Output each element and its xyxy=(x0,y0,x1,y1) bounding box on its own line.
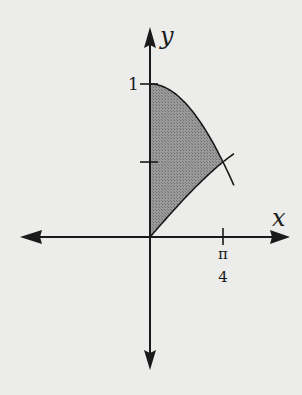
x-tick-label-denominator: 4 xyxy=(218,268,228,286)
y-tick-label: 1 xyxy=(128,74,139,94)
x-axis-label: x xyxy=(272,204,286,232)
shaded-region xyxy=(150,84,223,237)
x-tick-label-numerator: π xyxy=(218,245,228,263)
x-axis-left-arrow xyxy=(20,230,42,244)
y-axis-up-arrow xyxy=(144,27,156,48)
x-axis-right-arrow xyxy=(270,230,290,244)
y-axis-down-arrow xyxy=(144,350,156,370)
y-axis-label: y xyxy=(159,22,174,50)
diagram: y x 1 π 4 xyxy=(0,0,302,395)
